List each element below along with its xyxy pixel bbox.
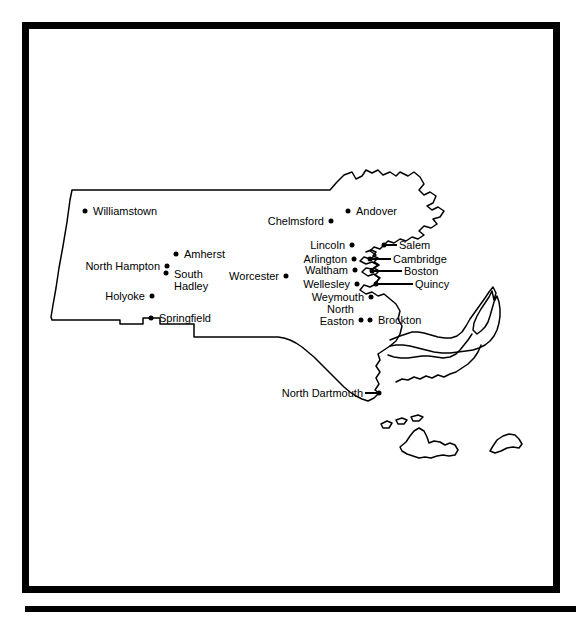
elizabeth-island-2 [396,418,407,424]
boston-harbor-detail [366,250,380,282]
city-dot[interactable] [377,391,382,396]
city-label[interactable]: Lincoln [310,239,345,251]
massachusetts-outline-svg [0,0,586,623]
city-label[interactable]: South Hadley [174,268,208,292]
city-label[interactable]: Weymouth [312,291,364,303]
city-label[interactable]: Chelmsford [268,215,324,227]
city-dot[interactable] [346,209,351,214]
city-dot[interactable] [370,269,375,274]
city-dot[interactable] [369,295,374,300]
city-label[interactable]: Springfield [159,312,211,324]
city-label[interactable]: Andover [356,205,397,217]
city-label[interactable]: North Dartmouth [282,387,363,399]
city-dot[interactable] [368,318,373,323]
city-dot[interactable] [149,316,154,321]
elizabeth-island-3 [411,415,423,421]
city-dot[interactable] [374,282,379,287]
city-label[interactable]: Brockton [378,314,421,326]
city-dot[interactable] [382,243,387,248]
city-dot[interactable] [83,209,88,214]
city-leader-line [374,283,413,285]
city-label[interactable]: North Hampton [85,260,160,272]
city-dot[interactable] [165,264,170,269]
city-leader-line [370,270,402,272]
city-dot[interactable] [353,268,358,273]
city-label[interactable]: Worcester [229,270,279,282]
city-dot[interactable] [329,219,334,224]
marthas-vineyard [400,428,458,458]
city-dot[interactable] [150,294,155,299]
city-label[interactable]: Quincy [415,278,449,290]
city-label[interactable]: Wellesley [303,278,350,290]
nantucket-island [490,434,522,453]
city-dot[interactable] [368,257,373,262]
city-dot[interactable] [355,282,360,287]
city-label[interactable]: Amherst [184,248,225,260]
city-label[interactable]: Boston [404,265,438,277]
city-label[interactable]: Williamstown [93,205,157,217]
city-dot[interactable] [359,318,364,323]
city-label[interactable]: North Easton [320,303,354,327]
city-dot[interactable] [350,243,355,248]
city-dot[interactable] [164,271,169,276]
cape-cod-bay-shoreline [388,334,472,358]
city-dot[interactable] [284,274,289,279]
city-label[interactable]: Holyoke [105,290,145,302]
city-label[interactable]: Waltham [305,264,348,276]
city-dot[interactable] [174,252,179,257]
city-label[interactable]: Cambridge [393,253,447,265]
map-page: WilliamstownChelmsfordAndoverNorth Hampt… [0,0,586,623]
city-dot[interactable] [352,257,357,262]
elizabeth-islands [381,421,392,428]
city-label[interactable]: Salem [399,239,430,251]
